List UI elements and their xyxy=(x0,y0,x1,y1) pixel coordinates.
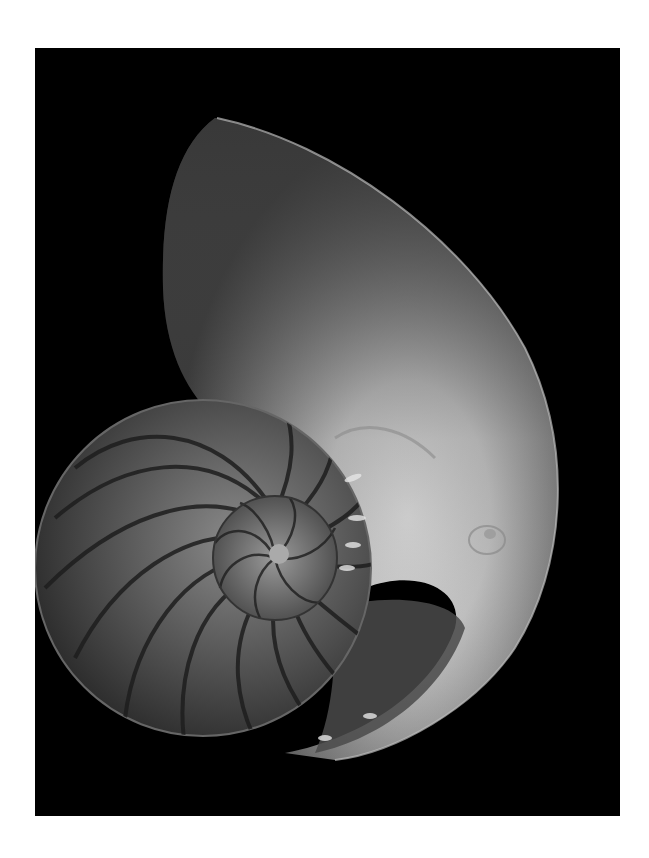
photograph xyxy=(35,48,620,816)
chambered-spiral xyxy=(35,400,377,758)
nautilus-shell xyxy=(35,48,620,816)
